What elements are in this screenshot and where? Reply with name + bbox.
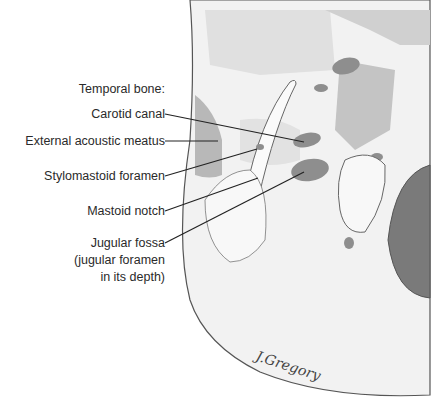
foramen-shape	[314, 84, 328, 92]
anatomy-figure: J.Gregory Temporal bone: Carotid canal E…	[0, 0, 441, 405]
label-mastoid-notch: Mastoid notch	[87, 204, 165, 218]
skull-base-illustration: J.Gregory	[0, 0, 441, 405]
shaded-region	[205, 10, 335, 75]
stylomastoid-foramen-shape	[256, 144, 264, 150]
label-jugular-fossa: Jugular fossa	[91, 236, 165, 250]
heading-temporal-bone: Temporal bone:	[79, 82, 165, 96]
label-carotid-canal: Carotid canal	[91, 107, 165, 121]
label-external-acoustic-meatus: External acoustic meatus	[25, 134, 165, 148]
label-jugular-fossa-line2: (jugular foramen	[74, 253, 165, 267]
foramen-shape	[344, 237, 354, 249]
label-stylomastoid-foramen: Stylomastoid foramen	[44, 169, 165, 183]
label-jugular-fossa-line3: in its depth)	[100, 270, 165, 284]
